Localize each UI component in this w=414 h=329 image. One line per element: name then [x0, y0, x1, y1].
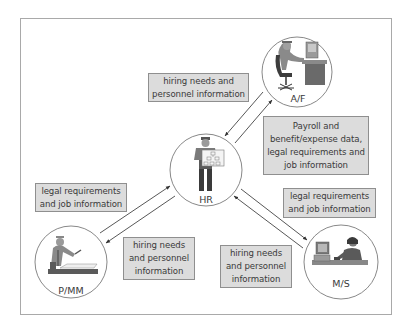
label-hr-to-af: Payroll and benefit/expense data, legal … [263, 116, 369, 175]
node-label-ms: M/S [321, 278, 361, 289]
node-label-af: A/F [278, 93, 318, 104]
label-text: hiring needs and personnel information [223, 247, 289, 286]
node-label-pmm: P/MM [51, 285, 91, 296]
label-af-to-hr: hiring needs and personnel information [148, 73, 249, 102]
label-hr-to-ms: legal requirements and job information [283, 188, 376, 218]
node-label-hr: HR [186, 194, 226, 205]
label-hr-to-pmm: hiring needs and personnel information [123, 237, 195, 280]
label-text: Payroll and benefit/expense data, legal … [266, 120, 366, 172]
label-text: legal requirements and job information [38, 185, 124, 211]
label-text: legal requirements and job information [286, 190, 373, 216]
label-text: hiring needs and personnel information [151, 75, 246, 101]
label-text: hiring needs and personnel information [126, 239, 192, 278]
label-pmm-to-hr: legal requirements and job information [35, 183, 127, 212]
label-ms-to-hr: hiring needs and personnel information [220, 245, 292, 288]
